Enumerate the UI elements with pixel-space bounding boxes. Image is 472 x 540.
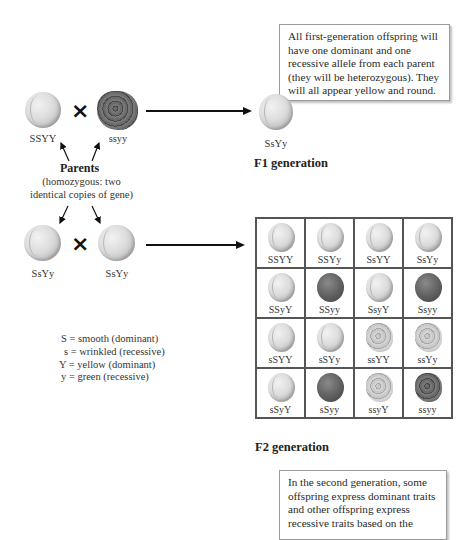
punnett-cell-genotype: ssyY	[355, 404, 402, 415]
punnett-cell-genotype: Ssyy	[404, 304, 451, 315]
punnett-cell-genotype: ssYy	[404, 354, 451, 365]
yellow-wrinkled-pea-icon	[366, 323, 393, 352]
punnett-cell: SSYy	[305, 218, 354, 268]
arrow-f1-to-f2	[146, 244, 239, 246]
yellow-round-pea-icon	[268, 323, 295, 352]
punnett-cell-genotype: SsYY	[355, 254, 402, 265]
punnett-cell-genotype: sSyy	[306, 404, 353, 415]
yellow-round-pea-icon	[366, 223, 393, 252]
f1-cross-left-genotype: SsYy	[22, 268, 64, 279]
key-item: S = smooth (dominant)	[61, 333, 165, 346]
punnett-cell-genotype: SsyY	[355, 304, 402, 315]
punnett-cell: SSyY	[256, 268, 305, 318]
punnett-cell-genotype: sSYY	[257, 354, 304, 365]
parents-description: (homozygous: two identical copies of gen…	[24, 175, 139, 201]
yellow-round-pea-icon	[268, 373, 295, 402]
yellow-wrinkled-pea-icon	[415, 323, 442, 352]
punnett-cell: Ssyy	[403, 268, 452, 318]
punnett-square: SSYYSSYySsYYSsYySSyYSSyySsyYSsyysSYYsSYy…	[255, 217, 453, 419]
punnett-cell: ssyY	[354, 368, 403, 418]
punnett-cell: ssyy	[403, 368, 452, 418]
punnett-cell: ssYy	[403, 318, 452, 368]
punnett-cell: SsyY	[354, 268, 403, 318]
cross-symbol-f1: ×	[71, 233, 89, 255]
f2-generation-heading: F2 generation	[255, 440, 329, 455]
green-wrinkled-pea-icon	[415, 373, 442, 402]
parents-title: Parents	[60, 161, 99, 176]
punnett-cell: SsYY	[354, 218, 403, 268]
key-item: y = green (recessive)	[61, 371, 165, 384]
f1-cross-left-pea	[24, 225, 61, 261]
punnett-cell: SsYy	[403, 218, 452, 268]
key-item: s = wrinkled (recessive)	[61, 346, 165, 359]
punnett-cell-genotype: SsYy	[404, 254, 451, 265]
f2-explanation-text: In the second generation, some offspring…	[288, 476, 435, 529]
punnett-cell: sSYy	[305, 318, 354, 368]
f2-explanation-callout: In the second generation, some offspring…	[279, 470, 447, 540]
punnett-cell-genotype: SSyY	[257, 304, 304, 315]
punnett-cell-genotype: ssyy	[404, 404, 451, 415]
punnett-cell-genotype: sSyY	[257, 404, 304, 415]
yellow-wrinkled-pea-icon	[366, 373, 393, 402]
green-round-pea-icon	[317, 373, 344, 402]
punnett-cell-genotype: SSYY	[257, 254, 304, 265]
punnett-cell: SSYY	[256, 218, 305, 268]
punnett-cell-genotype: SSYy	[306, 254, 353, 265]
punnett-cell: ssYY	[354, 318, 403, 368]
punnett-cell: sSYY	[256, 318, 305, 368]
punnett-cell-genotype: sSYy	[306, 354, 353, 365]
yellow-round-pea-icon	[317, 323, 344, 352]
punnett-cell: sSyy	[305, 368, 354, 418]
green-round-pea-icon	[317, 273, 344, 302]
punnett-cell: SSyy	[305, 268, 354, 318]
punnett-cell-genotype: SSyy	[306, 304, 353, 315]
yellow-round-pea-icon	[366, 273, 393, 302]
green-round-pea-icon	[415, 273, 442, 302]
yellow-round-pea-icon	[415, 223, 442, 252]
punnett-cell: sSyY	[256, 368, 305, 418]
yellow-round-pea-icon	[268, 223, 295, 252]
yellow-round-pea-icon	[317, 223, 344, 252]
f1-cross-right-pea	[98, 225, 135, 261]
arrowhead-icon	[236, 241, 245, 249]
key-item: Y = yellow (dominant)	[59, 359, 165, 372]
allele-key: S = smooth (dominant) s = wrinkled (rece…	[61, 333, 165, 384]
yellow-round-pea-icon	[268, 273, 295, 302]
f1-cross-right-genotype: SsYy	[96, 268, 138, 279]
punnett-cell-genotype: ssYY	[355, 354, 402, 365]
